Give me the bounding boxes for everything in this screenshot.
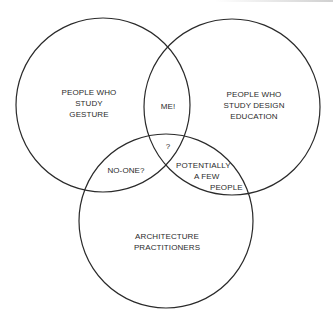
label-gesture: PEOPLE WHO STUDY GESTURE (53, 87, 125, 120)
venn-circles (0, 0, 333, 323)
label-line: STUDY DESIGN (214, 100, 294, 111)
label-line: GESTURE (53, 109, 125, 120)
label-line: STUDY (53, 98, 125, 109)
label-architecture: ARCHITECTURE PRACTITIONERS (127, 231, 207, 253)
label-line: PRACTITIONERS (127, 242, 207, 253)
label-line: ARCHITECTURE (127, 231, 207, 242)
label-line: POTENTIALLY (174, 160, 244, 171)
label-all-three: ? (160, 141, 176, 152)
label-line: PEOPLE (174, 182, 244, 193)
label-line: PEOPLE WHO (53, 87, 125, 98)
label-line: A FEW (174, 171, 244, 182)
label-design-education: PEOPLE WHO STUDY DESIGN EDUCATION (214, 89, 294, 122)
label-line: ME! (153, 101, 183, 112)
label-line: NO-ONE? (103, 165, 149, 176)
label-me: ME! (153, 101, 183, 112)
label-line: ? (160, 141, 176, 152)
label-line: EDUCATION (214, 111, 294, 122)
venn-diagram: PEOPLE WHO STUDY GESTURE PEOPLE WHO STUD… (0, 0, 333, 323)
label-potentially: POTENTIALLY A FEW PEOPLE (174, 160, 244, 193)
label-no-one: NO-ONE? (103, 165, 149, 176)
label-line: PEOPLE WHO (214, 89, 294, 100)
